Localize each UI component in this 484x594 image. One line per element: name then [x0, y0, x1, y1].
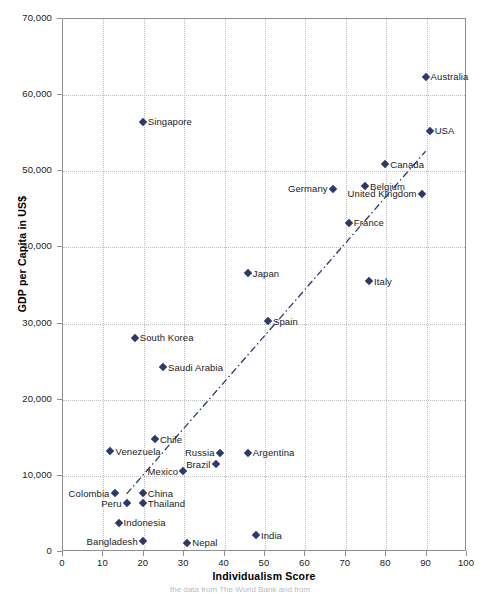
x-axis-tick-mark — [304, 551, 305, 556]
gridline-horizontal — [63, 400, 465, 401]
x-axis-tick-mark — [466, 551, 467, 556]
x-axis-tick-mark — [385, 551, 386, 556]
data-point-label: India — [261, 531, 282, 541]
gridline-vertical — [103, 19, 104, 550]
gridline-horizontal — [63, 95, 465, 96]
data-point-label: Singapore — [148, 117, 192, 127]
y-axis-tick-label: 30,000 — [4, 317, 52, 328]
data-point-label: Canada — [390, 160, 424, 170]
gridline-horizontal — [63, 476, 465, 477]
x-axis-tick-mark — [264, 551, 265, 556]
x-axis-tick-mark — [224, 551, 225, 556]
y-axis-tick-mark — [57, 399, 62, 400]
data-point-label: Brazil — [186, 460, 210, 470]
data-point-label: Saudi Arabia — [168, 363, 223, 373]
x-axis-tick-label: 10 — [82, 557, 122, 568]
data-point-label: Bangladesh — [87, 537, 138, 547]
y-axis-tick-label: 40,000 — [4, 240, 52, 251]
x-axis-tick-label: 70 — [325, 557, 365, 568]
data-point-label: Spain — [273, 317, 298, 327]
data-point-label: Colombia — [69, 489, 110, 499]
y-axis-tick-mark — [57, 170, 62, 171]
data-point-label: USA — [435, 126, 455, 136]
data-point-label: Mexico — [147, 467, 178, 477]
scatter-chart: GDP per Capita in US$ Individualism Scor… — [0, 0, 484, 594]
x-axis-title: Individualism Score — [62, 570, 466, 582]
plot-area — [62, 18, 466, 551]
x-axis-tick-label: 0 — [42, 557, 82, 568]
data-point-label: Peru — [101, 499, 121, 509]
data-point-label: Venezuela — [115, 447, 160, 457]
data-point-label: Indonesia — [124, 518, 166, 528]
y-axis-tick-label: 10,000 — [4, 469, 52, 480]
gridline-vertical — [265, 19, 266, 550]
y-axis-tick-mark — [57, 18, 62, 19]
data-point-label: Australia — [431, 72, 469, 82]
gridline-horizontal — [63, 171, 465, 172]
x-axis-tick-label: 30 — [163, 557, 203, 568]
y-axis-tick-label: 20,000 — [4, 393, 52, 404]
x-axis-tick-label: 90 — [406, 557, 446, 568]
gridline-horizontal — [63, 247, 465, 248]
gridline-vertical — [427, 19, 428, 550]
data-point-label: Russia — [185, 448, 215, 458]
data-point-label: Chile — [160, 435, 182, 445]
gridline-vertical — [225, 19, 226, 550]
x-axis-tick-mark — [62, 551, 63, 556]
x-axis-tick-mark — [143, 551, 144, 556]
y-axis-tick-mark — [57, 475, 62, 476]
y-axis-tick-label: 0 — [4, 545, 52, 556]
data-point-label: Italy — [374, 277, 392, 287]
x-axis-tick-label: 50 — [244, 557, 284, 568]
data-point-label: South Korea — [140, 333, 194, 343]
x-axis-tick-mark — [426, 551, 427, 556]
data-point-label: France — [354, 218, 384, 228]
x-axis-tick-label: 60 — [284, 557, 324, 568]
source-caption: the data from The World Bank and from — [170, 585, 484, 593]
gridline-vertical — [346, 19, 347, 550]
data-point-label: Thailand — [148, 499, 185, 509]
x-axis-tick-mark — [102, 551, 103, 556]
data-point-label: Germany — [288, 184, 328, 194]
gridline-vertical — [305, 19, 306, 550]
y-axis-tick-label: 70,000 — [4, 12, 52, 23]
gridline-horizontal — [63, 324, 465, 325]
data-point-label: Argentina — [253, 448, 295, 458]
x-axis-tick-label: 100 — [446, 557, 484, 568]
y-axis-tick-mark — [57, 246, 62, 247]
y-axis-tick-label: 60,000 — [4, 88, 52, 99]
y-axis-tick-mark — [57, 323, 62, 324]
data-point-label: Nepal — [192, 538, 217, 548]
data-point-label: China — [148, 489, 173, 499]
gridline-vertical — [144, 19, 145, 550]
data-point-label: Belgium — [370, 182, 405, 192]
y-axis-tick-mark — [57, 94, 62, 95]
x-axis-tick-label: 80 — [365, 557, 405, 568]
x-axis-tick-mark — [183, 551, 184, 556]
data-point-label: Japan — [253, 269, 279, 279]
x-axis-tick-mark — [345, 551, 346, 556]
x-axis-tick-label: 40 — [204, 557, 244, 568]
y-axis-tick-label: 50,000 — [4, 164, 52, 175]
x-axis-tick-label: 20 — [123, 557, 163, 568]
